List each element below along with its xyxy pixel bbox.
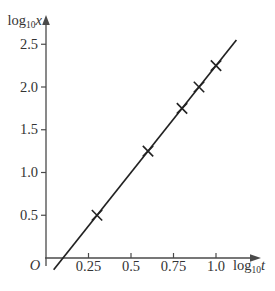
y-tick-label: 0.5 bbox=[20, 207, 38, 223]
data-point-marker bbox=[143, 146, 153, 156]
x-tick-label: 0.25 bbox=[76, 258, 101, 274]
x-tick-label: 0.5 bbox=[122, 258, 140, 274]
x-axis-label: log10t bbox=[233, 257, 266, 275]
data-point-marker bbox=[211, 60, 221, 70]
data-point-marker bbox=[194, 82, 204, 92]
y-tick-label: 1.0 bbox=[20, 164, 38, 180]
data-point-marker bbox=[92, 210, 102, 220]
x-tick-label: 1.0 bbox=[207, 258, 225, 274]
data-point-marker bbox=[177, 103, 187, 113]
x-tick-label: 0.75 bbox=[161, 258, 186, 274]
y-tick-label: 2.5 bbox=[20, 36, 38, 52]
y-axis-label: log10x bbox=[8, 12, 43, 30]
chart-canvas: 0.250.50.751.00.51.01.52.02.5Olog10xlog1… bbox=[0, 0, 275, 291]
x-axis-arrowhead bbox=[250, 254, 261, 262]
y-tick-label: 1.5 bbox=[20, 121, 38, 137]
origin-label: O bbox=[30, 257, 41, 273]
y-tick-label: 2.0 bbox=[20, 79, 38, 95]
y-axis-arrowhead bbox=[42, 15, 50, 25]
log-log-plot-figure: 0.250.50.751.00.51.01.52.02.5Olog10xlog1… bbox=[0, 0, 275, 291]
